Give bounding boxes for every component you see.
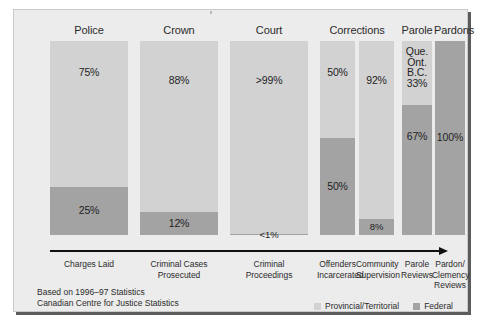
bar-segment-label: 67% — [407, 131, 428, 143]
stage-label-parole-reviews: Parole Reviews — [399, 259, 435, 280]
chart-frame: PoliceCrownCourtCorrectionsParolePardons… — [13, 9, 468, 312]
process-flow-axis — [50, 247, 448, 256]
legend-label-federal: Federal — [424, 301, 453, 311]
stage-label-criminal-cases-prosecuted: Criminal Cases Prosecuted — [137, 259, 221, 280]
stage-label-pardon-clemency-reviews: Pardon/ Clemency Reviews — [432, 259, 468, 291]
bar-charges-laid: 75%25% — [50, 41, 128, 235]
bar-segment-criminal-proceedings-provincial: >99% — [230, 41, 308, 234]
column-header-crown: Crown — [140, 23, 218, 37]
column-header-pardons: Pardons — [434, 23, 468, 37]
bar-segment-criminal-proceedings-federal: <1% — [230, 234, 308, 235]
legend-item-federal: Federal — [413, 301, 453, 311]
bar-segment-label: 50% — [327, 181, 348, 193]
stage-label-charges-laid: Charges Laid — [47, 259, 131, 270]
bar-parole-reviews: Que. Ont. B.C. 33%67% — [402, 41, 432, 235]
top-tick-mark — [210, 11, 212, 14]
source-note: Based on 1996–97 Statistics Canadian Cen… — [37, 287, 179, 309]
column-header-court: Court — [230, 23, 308, 37]
bar-segment-label: 12% — [169, 218, 190, 230]
bar-segment-offenders-incarcerated-provincial: 50% — [320, 41, 355, 138]
bar-segment-label: 100% — [437, 132, 463, 144]
column-header-parole: Parole — [400, 23, 434, 37]
bar-segment-label: 50% — [327, 67, 348, 79]
bar-segment-offenders-incarcerated-federal: 50% — [320, 138, 355, 235]
axis-line — [50, 250, 441, 252]
column-header-police: Police — [50, 23, 128, 37]
bar-segment-charges-laid-provincial: 75% — [50, 41, 128, 187]
source-note-line-2: Canadian Centre for Justice Statistics — [37, 298, 179, 309]
bar-offenders-incarcerated: 50%50% — [320, 41, 355, 235]
bar-segment-label: 92% — [366, 75, 387, 87]
bar-segment-community-supervision-provincial: 92% — [359, 41, 394, 219]
bar-pardon-clemency-reviews: 100% — [435, 41, 465, 235]
bar-segment-label: 75% — [79, 67, 100, 79]
legend-item-provincial: Provincial/Territorial — [314, 301, 399, 311]
bar-segment-label: 8% — [370, 221, 384, 233]
bar-segment-parole-reviews-federal: 67% — [402, 105, 432, 235]
legend-swatch-federal — [413, 303, 420, 310]
bar-segment-criminal-cases-prosecuted-provincial: 88% — [140, 41, 218, 212]
axis-arrow-icon — [439, 247, 448, 255]
column-headers: PoliceCrownCourtCorrectionsParolePardons — [14, 23, 467, 41]
bar-community-supervision: 92%8% — [359, 41, 394, 235]
bar-segment-charges-laid-federal: 25% — [50, 187, 128, 236]
bar-segment-criminal-cases-prosecuted-federal: 12% — [140, 212, 218, 235]
bar-segment-label: <1% — [260, 229, 279, 241]
legend: Provincial/TerritorialFederal — [314, 301, 453, 311]
column-header-corrections: Corrections — [320, 23, 394, 37]
bar-segment-pardon-clemency-reviews-federal: 100% — [435, 41, 465, 235]
bar-segment-label: Que. Ont. B.C. 33% — [406, 46, 428, 88]
bar-criminal-cases-prosecuted: 88%12% — [140, 41, 218, 235]
bar-segment-label: 88% — [169, 75, 190, 87]
stage-label-criminal-proceedings: Criminal Proceedings — [227, 259, 311, 280]
legend-swatch-provincial — [314, 303, 321, 310]
stage-label-community-supervision: Community Supervision — [356, 259, 397, 280]
bar-segment-label: 25% — [79, 205, 100, 217]
plot-area: 75%25%88%12%>99%<1%50%50%92%8%Que. Ont. … — [14, 41, 467, 235]
bar-segment-community-supervision-federal: 8% — [359, 219, 394, 235]
bar-criminal-proceedings: >99%<1% — [230, 41, 308, 235]
legend-label-provincial: Provincial/Territorial — [325, 301, 399, 311]
stage-label-offenders-incarcerated: Offenders Incarcerated — [317, 259, 358, 280]
bar-segment-label: >99% — [256, 75, 283, 87]
bar-segment-parole-reviews-provincial: Que. Ont. B.C. 33% — [402, 41, 432, 105]
source-note-line-1: Based on 1996–97 Statistics — [37, 287, 179, 298]
